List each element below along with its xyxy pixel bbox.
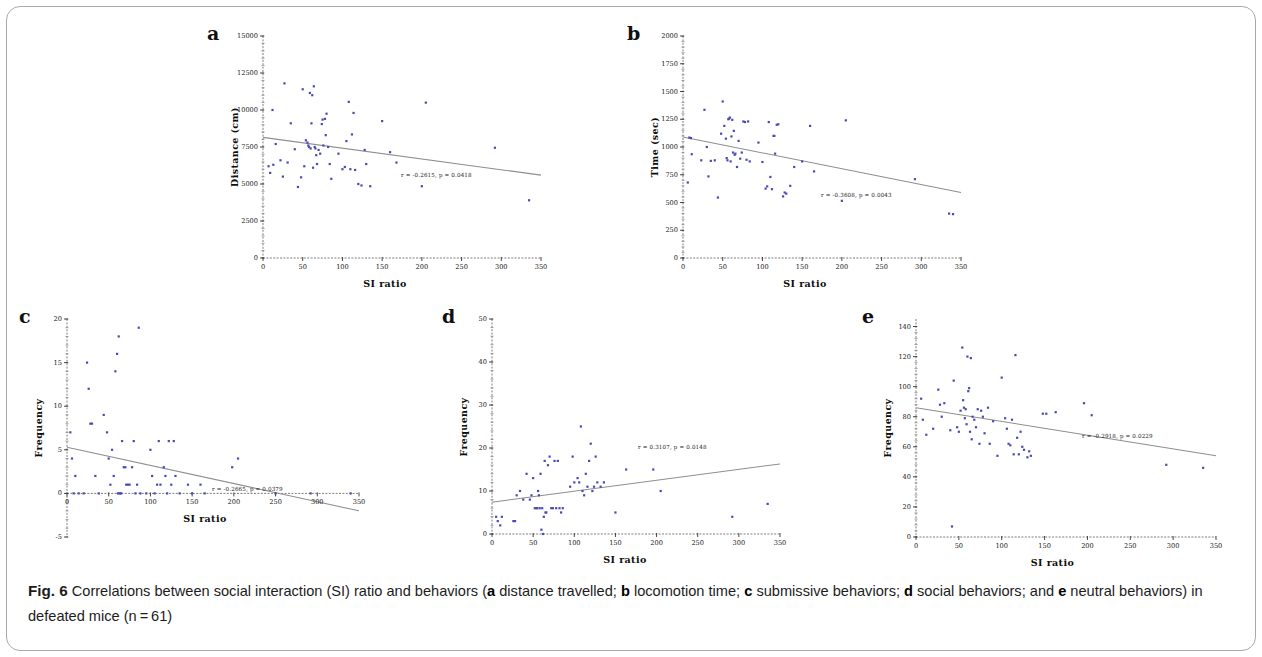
data-point (310, 492, 312, 494)
x-tick-label: 50 (719, 263, 727, 271)
data-point (730, 160, 732, 162)
x-tick-label: 350 (774, 539, 787, 547)
x-tick-label: 50 (955, 542, 963, 550)
y-tick-label: 2000 (625, 32, 678, 40)
plot-area-a (205, 22, 565, 297)
correlation-annotation: r = -0.3608, p = 0.0043 (821, 192, 892, 198)
x-tick-label: 0 (261, 263, 265, 271)
data-point (541, 507, 543, 509)
x-tick-label: 50 (105, 498, 113, 506)
plot-area-c (15, 305, 395, 570)
data-point (939, 404, 941, 406)
y-tick-label: 20 (15, 315, 62, 323)
data-point (352, 112, 354, 114)
data-point (706, 146, 708, 148)
data-point (925, 434, 927, 436)
x-tick-label: 150 (796, 263, 809, 271)
data-point (581, 490, 583, 492)
data-point (354, 169, 356, 171)
data-point (596, 481, 598, 483)
data-point (287, 161, 289, 163)
data-point (1028, 450, 1030, 452)
regression-line (916, 408, 1216, 456)
y-tick-label: -5 (15, 533, 62, 541)
data-point (983, 432, 985, 434)
data-point (841, 200, 843, 202)
x-tick-label: 300 (311, 498, 324, 506)
data-point (327, 146, 329, 148)
data-point (318, 149, 320, 151)
y-tick-label: 120 (860, 353, 911, 361)
x-tick-label: 200 (836, 263, 849, 271)
data-point (747, 120, 749, 122)
data-point (71, 457, 73, 459)
panel-a: a025005000750010000125001500005010015020… (205, 22, 565, 297)
correlation-annotation: r = -0.2615, p = 0.0418 (401, 172, 472, 178)
data-point (741, 151, 743, 153)
x-tick-label: 300 (733, 539, 746, 547)
data-point (530, 494, 532, 496)
x-tick-label: 200 (1081, 542, 1094, 550)
data-point (732, 151, 734, 153)
data-point (73, 492, 75, 494)
data-point (771, 188, 773, 190)
x-tick-label: 100 (995, 542, 1008, 550)
data-point (231, 466, 233, 468)
y-tick-label: 1500 (625, 88, 678, 96)
data-point (329, 163, 331, 165)
y-tick-label: 15000 (205, 32, 258, 40)
data-point (94, 475, 96, 477)
data-point (595, 456, 597, 458)
data-point (158, 440, 160, 442)
x-tick-label: 250 (1124, 542, 1137, 550)
data-point (539, 507, 541, 509)
caption-ref-a: a (487, 583, 495, 599)
data-point (529, 499, 531, 501)
data-point (159, 484, 161, 486)
x-tick-label: 50 (529, 539, 537, 547)
data-point (275, 143, 277, 145)
data-point (749, 160, 751, 162)
data-point (690, 137, 692, 139)
data-point (191, 492, 193, 494)
data-point (305, 139, 307, 141)
data-point (179, 492, 181, 494)
data-point (120, 492, 122, 494)
data-point (969, 431, 971, 433)
data-point (118, 335, 120, 337)
correlation-annotation: r = -0.2918, p = 0.0229 (1082, 433, 1153, 439)
data-point (922, 419, 924, 421)
data-point (528, 199, 530, 201)
data-point (600, 486, 602, 488)
regression-line (683, 137, 961, 192)
data-point (547, 464, 549, 466)
data-point (139, 492, 141, 494)
x-tick-label: 350 (1210, 542, 1223, 550)
data-point (562, 507, 564, 509)
data-point (992, 420, 994, 422)
data-point (586, 486, 588, 488)
data-point (729, 116, 731, 118)
data-point (365, 163, 367, 165)
data-point (121, 440, 123, 442)
data-point (134, 492, 136, 494)
data-point (312, 167, 314, 169)
data-point (98, 492, 100, 494)
correlation-annotation: r = 0.3107, p = 0.0148 (638, 444, 707, 450)
data-point (145, 492, 147, 494)
data-point (187, 484, 189, 486)
data-point (269, 172, 271, 174)
data-point (315, 154, 317, 156)
data-point (525, 473, 527, 475)
data-point (360, 184, 362, 186)
data-point (920, 398, 922, 400)
data-point (572, 456, 574, 458)
data-point (337, 153, 339, 155)
data-point (540, 529, 542, 531)
data-point (133, 440, 135, 442)
data-point (1018, 453, 1020, 455)
data-point (757, 141, 759, 143)
data-point (173, 440, 175, 442)
data-point (314, 147, 316, 149)
y-tick-label: 2500 (205, 217, 258, 225)
